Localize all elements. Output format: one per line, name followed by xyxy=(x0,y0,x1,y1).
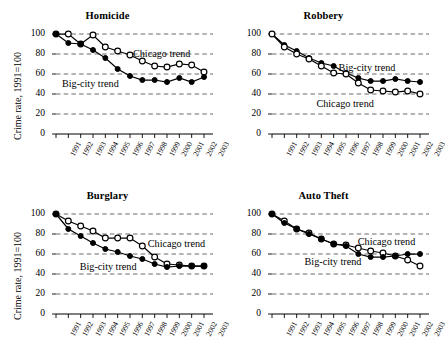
y-tick-label: 0 xyxy=(23,309,45,319)
panel-burglary: Burglary Crime rate, 1991=100 0204060801… xyxy=(0,180,215,360)
x-tick-label: 1999 xyxy=(167,320,182,338)
y-tick-label: 0 xyxy=(239,309,261,319)
y-tick-label: 20 xyxy=(239,289,261,299)
x-tick-label: 1997 xyxy=(358,320,373,338)
y-tick-label: 60 xyxy=(23,69,45,79)
x-tick-label: 1997 xyxy=(358,140,373,158)
x-tick-label: 2002 xyxy=(420,140,435,158)
panel-homicide: Homicide Crime rate, 1991=100 0204060801… xyxy=(0,0,215,180)
x-tick-label: 1992 xyxy=(80,320,95,338)
x-tick-label: 1993 xyxy=(309,320,324,338)
x-tick-label: 2000 xyxy=(395,140,410,158)
y-tick-label: 60 xyxy=(23,249,45,259)
x-tick-label: 2000 xyxy=(395,320,410,338)
y-tick-label: 20 xyxy=(23,289,45,299)
plot-area: 0204060801001991199219931994199519961997… xyxy=(56,214,204,314)
series-label-big-city: Big-city trend xyxy=(80,261,137,272)
x-tick-label: 1993 xyxy=(93,320,108,338)
x-tick-label: 1995 xyxy=(333,140,348,158)
y-axis-label: Crime rate, 1991=100 xyxy=(12,232,23,320)
x-tick-label: 1993 xyxy=(93,140,108,158)
panel-auto-theft: Auto Theft 02040608010019911992199319941… xyxy=(216,180,431,360)
series-label-chicago: Chicago trend xyxy=(148,238,205,249)
x-tick-label: 1991 xyxy=(68,140,83,158)
x-tick-label: 1997 xyxy=(142,320,157,338)
x-tick-label: 1992 xyxy=(80,140,95,158)
series-label-big-city: Big-city trend xyxy=(339,62,396,73)
y-tick-label: 40 xyxy=(23,89,45,99)
x-tick-label: 1994 xyxy=(105,320,120,338)
x-tick-label: 1997 xyxy=(142,140,157,158)
panel-title: Burglary xyxy=(0,190,215,201)
y-tick-label: 20 xyxy=(23,109,45,119)
x-tick-label: 1996 xyxy=(346,140,361,158)
x-tick-label: 1998 xyxy=(370,140,385,158)
y-tick-label: 20 xyxy=(239,109,261,119)
x-tick-label: 2002 xyxy=(420,320,435,338)
x-tick-label: 2001 xyxy=(191,140,206,158)
x-tick-label: 2001 xyxy=(407,320,422,338)
y-tick-label: 80 xyxy=(23,49,45,59)
y-tick-label: 100 xyxy=(23,209,45,219)
x-tick-label: 2003 xyxy=(432,320,447,338)
panel-title: Homicide xyxy=(0,10,215,21)
plot-area: 0204060801001991199219931994199519961997… xyxy=(56,34,204,134)
x-tick-label: 1999 xyxy=(383,140,398,158)
y-tick-label: 80 xyxy=(239,49,261,59)
x-tick-label: 1999 xyxy=(167,140,182,158)
x-tick-label: 1994 xyxy=(321,320,336,338)
x-tick-label: 2001 xyxy=(407,140,422,158)
y-axis-label: Crime rate, 1991=100 xyxy=(12,52,23,140)
x-tick-label: 2000 xyxy=(179,140,194,158)
x-tick-label: 1991 xyxy=(68,320,83,338)
x-tick-label: 2003 xyxy=(432,140,447,158)
x-tick-label: 1996 xyxy=(130,140,145,158)
y-tick-label: 100 xyxy=(239,29,261,39)
plot-area: 0204060801001991199219931994199519961997… xyxy=(272,34,420,134)
series-label-chicago: Chicago trend xyxy=(358,236,415,247)
y-tick-label: 0 xyxy=(23,129,45,139)
y-tick-label: 80 xyxy=(23,229,45,239)
y-tick-label: 100 xyxy=(23,29,45,39)
y-tick-label: 60 xyxy=(239,249,261,259)
series-label-big-city: Big-city trend xyxy=(62,78,119,89)
y-tick-label: 80 xyxy=(239,229,261,239)
x-tick-label: 1994 xyxy=(321,140,336,158)
y-tick-label: 60 xyxy=(239,69,261,79)
x-tick-label: 1995 xyxy=(117,320,132,338)
x-tick-label: 2001 xyxy=(191,320,206,338)
x-tick-label: 1998 xyxy=(154,320,169,338)
panel-title: Auto Theft xyxy=(216,190,431,201)
plot-area: 0204060801001991199219931994199519961997… xyxy=(272,214,420,314)
series-label-chicago: Chicago trend xyxy=(316,98,373,109)
y-tick-label: 100 xyxy=(239,209,261,219)
x-tick-label: 1999 xyxy=(383,320,398,338)
panel-title: Robbery xyxy=(216,10,431,21)
x-tick-label: 1994 xyxy=(105,140,120,158)
x-tick-label: 1993 xyxy=(309,140,324,158)
y-tick-label: 40 xyxy=(239,269,261,279)
x-tick-label: 1995 xyxy=(333,320,348,338)
x-tick-label: 1998 xyxy=(370,320,385,338)
x-tick-label: 1996 xyxy=(130,320,145,338)
x-tick-label: 1991 xyxy=(284,320,299,338)
y-tick-label: 0 xyxy=(239,129,261,139)
series-label-big-city: Big-city trend xyxy=(305,256,362,267)
x-tick-label: 1998 xyxy=(154,140,169,158)
panel-robbery: Robbery 02040608010019911992199319941995… xyxy=(216,0,431,180)
x-tick-label: 1992 xyxy=(296,140,311,158)
x-tick-label: 1996 xyxy=(346,320,361,338)
series-label-chicago: Chicago trend xyxy=(133,48,190,59)
y-tick-label: 40 xyxy=(239,89,261,99)
x-tick-label: 2000 xyxy=(179,320,194,338)
x-tick-label: 1991 xyxy=(284,140,299,158)
y-tick-label: 40 xyxy=(23,269,45,279)
x-tick-label: 1992 xyxy=(296,320,311,338)
x-tick-label: 1995 xyxy=(117,140,132,158)
